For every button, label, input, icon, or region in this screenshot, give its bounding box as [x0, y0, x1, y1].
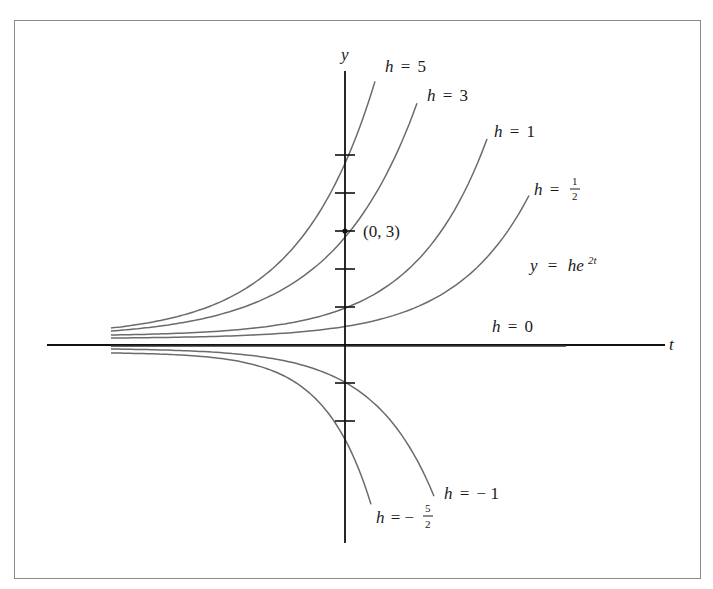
label-hneg52: h = − 5 2: [376, 502, 433, 530]
label-h3-eq: =: [443, 86, 453, 105]
label-hneg1: h = − 1: [444, 484, 499, 503]
label-h1: h = 1: [494, 122, 535, 141]
label-h5-val: 5: [418, 57, 427, 76]
label-hneg52-numerator: 5: [425, 502, 431, 514]
label-hhalf: h = 1 2: [534, 175, 580, 202]
label-h0: h = 0: [492, 317, 533, 336]
solution-curves-plot: y t (0, 3) y = he 2t h = 5 h = 3 h = 1 h…: [0, 0, 713, 589]
equation-base: he: [568, 256, 585, 275]
point-label: (0, 3): [363, 222, 400, 241]
label-h3: h = 3: [427, 86, 468, 105]
equation-label: y = he 2t: [528, 254, 597, 275]
label-h1-var: h: [494, 122, 503, 141]
equation-eq: =: [548, 256, 558, 275]
label-h5-var: h: [385, 57, 394, 76]
label-hneg1-var: h: [444, 484, 453, 503]
label-h1-eq: =: [510, 122, 520, 141]
t-axis-label: t: [669, 335, 675, 354]
label-hneg1-val: − 1: [477, 484, 499, 503]
label-h1-val: 1: [527, 122, 536, 141]
solution-curve: [111, 139, 487, 335]
y-axis-label: y: [339, 45, 349, 64]
label-h3-var: h: [427, 86, 436, 105]
curve-group: [111, 81, 529, 504]
label-h0-eq: =: [508, 317, 518, 336]
label-hneg52-denominator: 2: [425, 518, 431, 530]
point-0-3-marker: [342, 228, 347, 233]
label-hhalf-denominator: 2: [572, 190, 578, 202]
label-hhalf-var: h: [534, 180, 543, 199]
equation-exponent: 2t: [588, 254, 598, 266]
label-hneg1-eq: =: [460, 484, 470, 503]
label-h5: h = 5: [385, 57, 426, 76]
label-h5-eq: =: [401, 57, 411, 76]
label-hneg52-var: h: [376, 508, 385, 527]
equation-lhs: y: [528, 256, 538, 275]
label-h0-val: 0: [525, 317, 534, 336]
label-h3-val: 3: [460, 86, 469, 105]
svg-text:h =: h =: [534, 180, 559, 199]
label-h0-var: h: [492, 317, 501, 336]
label-hhalf-eq: =: [550, 180, 560, 199]
svg-text:h = −: h = −: [376, 508, 414, 527]
label-hhalf-numerator: 1: [572, 175, 578, 187]
solution-curve: [111, 81, 375, 328]
label-hneg52-eq: = −: [391, 508, 414, 527]
